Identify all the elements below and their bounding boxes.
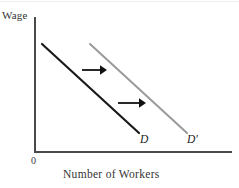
- curve-label-d: D: [140, 133, 148, 145]
- shift-arrow-upper-icon: [82, 65, 107, 75]
- x-axis-title: Number of Workers: [63, 168, 160, 180]
- y-axis-title: Wage: [2, 9, 28, 21]
- demand-curve-d-prime: [90, 44, 187, 133]
- origin-label: 0: [31, 155, 36, 166]
- labor-demand-shift-figure: Wage Number of Workers 0 D D′: [0, 0, 239, 188]
- curve-label-d-prime: D′: [187, 133, 198, 145]
- demand-curve-d: [42, 44, 139, 133]
- shift-arrow-lower-icon: [118, 98, 146, 108]
